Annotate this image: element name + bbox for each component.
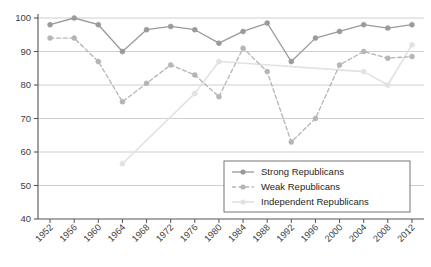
legend-label: Independent Republicans — [261, 196, 369, 207]
data-point — [409, 42, 414, 47]
data-point — [409, 54, 414, 59]
y-tick-label: 40 — [20, 213, 31, 224]
data-point — [168, 62, 173, 67]
data-point — [337, 29, 342, 34]
data-point — [241, 46, 246, 51]
data-point — [96, 22, 101, 27]
data-point — [216, 59, 221, 64]
data-point — [313, 116, 318, 121]
data-point — [192, 72, 197, 77]
chart-legend: Strong RepublicansWeak RepublicansIndepe… — [224, 161, 410, 212]
line-chart: 405060708090100 195219561960196419681972… — [0, 0, 431, 267]
legend-label: Weak Republicans — [261, 181, 340, 192]
y-tick-label: 80 — [20, 79, 31, 90]
data-point — [241, 29, 246, 34]
legend-marker — [240, 184, 245, 189]
data-point — [361, 22, 366, 27]
data-point — [192, 27, 197, 32]
y-tick-label: 50 — [20, 180, 31, 191]
chart-container: 405060708090100 195219561960196419681972… — [0, 0, 431, 267]
data-point — [385, 56, 390, 61]
y-tick-label: 100 — [15, 12, 31, 23]
data-point — [289, 139, 294, 144]
data-point — [361, 49, 366, 54]
data-point — [72, 16, 77, 21]
data-point — [72, 36, 77, 41]
legend-marker — [240, 199, 245, 204]
data-point — [96, 59, 101, 64]
y-tick-label: 70 — [20, 113, 31, 124]
data-point — [120, 49, 125, 54]
data-point — [120, 161, 125, 166]
data-point — [385, 26, 390, 31]
data-point — [313, 36, 318, 41]
data-point — [265, 69, 270, 74]
data-point — [216, 94, 221, 99]
data-point — [289, 59, 294, 64]
y-tick-label: 60 — [20, 146, 31, 157]
data-point — [409, 22, 414, 27]
data-point — [144, 27, 149, 32]
data-point — [192, 91, 197, 96]
data-point — [144, 81, 149, 86]
data-point — [361, 69, 366, 74]
data-point — [48, 22, 53, 27]
data-point — [120, 99, 125, 104]
y-tick-label: 90 — [20, 46, 31, 57]
data-point — [385, 82, 390, 87]
data-point — [48, 36, 53, 41]
data-point — [168, 24, 173, 29]
data-point — [337, 62, 342, 67]
legend-label: Strong Republicans — [261, 166, 344, 177]
legend-marker — [240, 169, 245, 174]
data-point — [265, 21, 270, 26]
data-point — [216, 41, 221, 46]
